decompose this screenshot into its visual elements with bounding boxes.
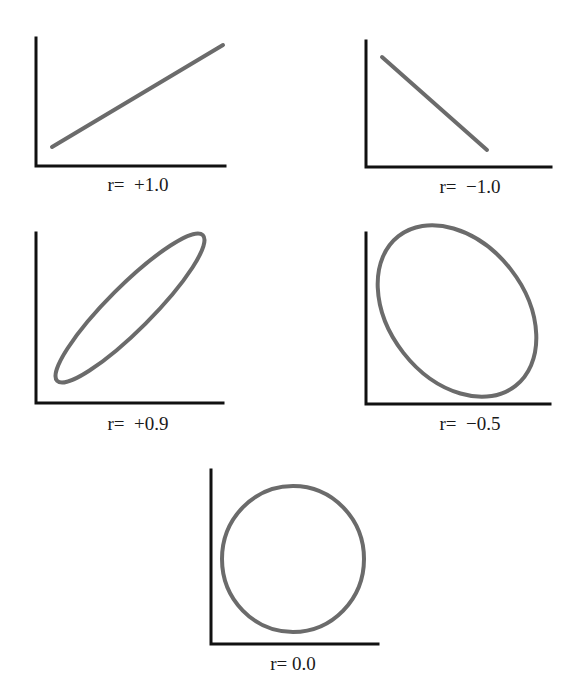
axes — [36, 233, 223, 403]
negative-line — [382, 57, 487, 150]
axes — [211, 470, 378, 644]
panel-label: r= 0.0 — [270, 653, 316, 674]
panel-label: r= +0.9 — [107, 413, 168, 434]
positive-line — [52, 45, 223, 147]
panel-label: r= +1.0 — [107, 174, 168, 195]
panel-r-plus-0.9: r= +0.9 — [36, 220, 223, 434]
negative-ellipse — [345, 194, 569, 427]
panel-label: r= −0.5 — [439, 413, 500, 434]
positive-ellipse — [42, 220, 219, 397]
panel-r-plus-1: r= +1.0 — [36, 38, 225, 195]
zero-circle — [222, 486, 364, 632]
panel-r-minus-1: r= −1.0 — [366, 41, 551, 197]
panel-label: r= −1.0 — [439, 176, 500, 197]
panel-r-zero: r= 0.0 — [211, 470, 378, 674]
panel-r-minus-0.5: r= −0.5 — [345, 194, 569, 434]
axes — [366, 41, 551, 167]
correlation-diagram: r= +1.0 r= −1.0 r= +0.9 r= −0.5 r= 0.0 — [0, 0, 576, 697]
